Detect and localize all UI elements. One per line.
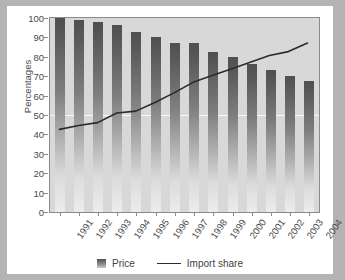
y-tick-mark [44,37,48,38]
x-tick-mark [156,213,157,216]
x-tick-mark [290,213,291,216]
y-tick-label: 30 [33,148,44,159]
x-tick-mark [98,213,99,216]
legend-item-price: Price [97,258,135,269]
y-tick-mark [44,76,48,77]
y-tick-label: 10 [33,187,44,198]
y-tick-mark [44,115,48,116]
y-tick-mark [44,18,48,19]
x-tick-label: 1997 [189,217,210,241]
x-tick-label: 1999 [227,217,248,241]
x-tick-label: 1993 [112,217,133,241]
x-tick-label: 2002 [285,217,306,241]
x-tick-mark [252,213,253,216]
chart-legend: Price Import share [7,255,333,271]
x-tick-label: 1992 [93,217,114,241]
x-tick-mark [309,213,310,216]
y-tick-mark [44,154,48,155]
y-tick-mark [44,193,48,194]
x-tick-mark [79,213,80,216]
x-tick-label: 1998 [208,217,229,241]
chart-figure: Percentages 0102030405060708090100 19911… [7,6,333,274]
x-tick-mark [117,213,118,216]
x-tick-mark [271,213,272,216]
y-tick-mark [44,212,48,213]
x-tick-mark [136,213,137,216]
x-tick-mark [233,213,234,216]
y-tick-label: 70 [33,71,44,82]
y-tick-mark [44,57,48,58]
x-tick-label: 1996 [170,217,191,241]
x-tick-label: 2000 [247,217,268,241]
line-series-import-share [50,18,319,212]
y-tick-label: 20 [33,168,44,179]
legend-label-import-share: Import share [187,258,243,269]
y-tick-mark [44,134,48,135]
x-tick-label: 2004 [323,217,344,241]
x-tick-mark [60,213,61,216]
y-axis: Percentages 0102030405060708090100 [7,17,49,213]
y-tick-label: 60 [33,90,44,101]
x-tick-mark [175,213,176,216]
x-tick-label: 1995 [150,217,171,241]
y-tick-label: 40 [33,129,44,140]
y-tick-label: 100 [28,13,44,24]
y-tick-mark [44,173,48,174]
x-axis: 1991199219931994199519961997199819992000… [49,213,320,257]
x-tick-mark [194,213,195,216]
x-tick-label: 1994 [131,217,152,241]
x-tick-label: 2003 [304,217,325,241]
y-tick-label: 50 [33,110,44,121]
y-tick-label: 80 [33,51,44,62]
x-tick-label: 1991 [74,217,95,241]
plot-area [49,17,320,213]
legend-item-import-share: Import share [157,258,243,269]
x-tick-label: 2001 [266,217,287,241]
legend-line-swatch-icon [157,263,181,264]
chart-card: Percentages 0102030405060708090100 19911… [7,6,333,274]
y-axis-label: Percentages [22,27,33,147]
x-tick-mark [213,213,214,216]
legend-bar-swatch-icon [97,259,106,268]
legend-label-price: Price [112,258,135,269]
y-tick-mark [44,96,48,97]
y-tick-label: 90 [33,32,44,43]
